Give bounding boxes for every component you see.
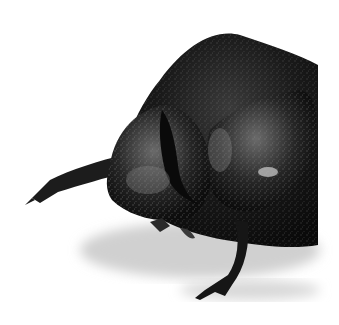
beetle-eye bbox=[258, 167, 278, 177]
beetle-photo bbox=[0, 0, 339, 325]
beetle-illustration bbox=[0, 0, 339, 325]
